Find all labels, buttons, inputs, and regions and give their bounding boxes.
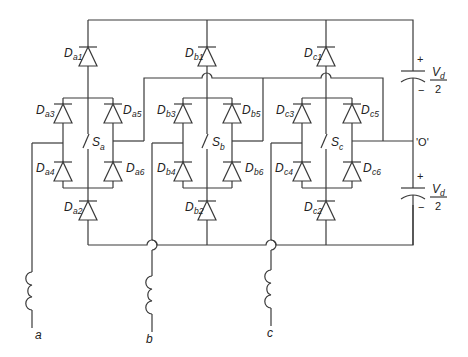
svg-text:D: D: [36, 161, 45, 175]
diode-c5-icon: [343, 104, 361, 123]
diode-a6-icon: [104, 162, 122, 181]
capacitor-upper: + − V d 2: [401, 53, 447, 141]
svg-text:b5: b5: [251, 109, 261, 119]
svg-text:a3: a3: [45, 109, 55, 119]
svg-text:D: D: [276, 103, 285, 117]
terminal-a-label: a: [35, 328, 42, 342]
diode-b6-icon: [223, 162, 241, 181]
svg-text:c: c: [339, 142, 344, 152]
diode-b4-icon: [174, 162, 192, 181]
svg-text:a2: a2: [73, 206, 83, 216]
diode-a4-icon: [54, 162, 72, 181]
svg-text:D: D: [361, 103, 370, 117]
cap-upper-den: 2: [435, 83, 441, 95]
phase-c-bridge: D c1 D c3 D c5 S c D c4: [271, 20, 381, 245]
svg-text:c4: c4: [284, 167, 293, 177]
svg-text:S: S: [331, 135, 339, 149]
svg-text:b2: b2: [194, 206, 204, 216]
diode-b5-icon: [223, 104, 241, 123]
diode-b3-icon: [174, 104, 192, 123]
schematic: + − V d 2 + − V d 2 'O' D a1: [0, 0, 468, 357]
svg-text:c2: c2: [313, 206, 322, 216]
diode-c6-icon: [343, 162, 361, 181]
svg-text:D: D: [245, 161, 254, 175]
svg-text:D: D: [157, 161, 166, 175]
phase-a-bridge: D a1 D a3 D a5 S a: [32, 20, 145, 245]
svg-text:b3: b3: [166, 109, 176, 119]
svg-text:D: D: [64, 46, 73, 60]
diode-c4-icon: [293, 162, 311, 181]
switch-sb: [202, 134, 208, 148]
svg-text:c1: c1: [313, 52, 322, 62]
svg-text:a4: a4: [45, 167, 55, 177]
svg-text:D: D: [242, 103, 251, 117]
cap-lower-minus: −: [418, 201, 424, 213]
svg-text:a1: a1: [73, 52, 83, 62]
phase-b-bridge: D b1 D b3 D b5 S b D b4: [152, 20, 264, 245]
svg-text:b: b: [220, 142, 225, 152]
svg-text:a6: a6: [135, 167, 145, 177]
svg-text:D: D: [157, 103, 166, 117]
cap-lower-plus: +: [417, 170, 423, 182]
switch-sa: [83, 134, 89, 148]
switch-sc: [321, 134, 327, 148]
svg-text:S: S: [212, 135, 220, 149]
svg-text:D: D: [185, 46, 194, 60]
svg-text:c5: c5: [370, 109, 379, 119]
terminal-b-label: b: [146, 332, 153, 346]
diode-a3-icon: [54, 104, 72, 123]
svg-text:c6: c6: [372, 167, 381, 177]
svg-text:b6: b6: [254, 167, 264, 177]
svg-text:D: D: [126, 161, 135, 175]
positive-dc-rail: [88, 20, 413, 64]
neutral-label: 'O': [416, 136, 429, 148]
diode-c3-icon: [293, 104, 311, 123]
svg-text:b1: b1: [194, 52, 204, 62]
negative-dc-rail: [88, 205, 413, 245]
diode-a5-icon: [104, 104, 122, 123]
capacitor-lower: + − V d 2: [401, 141, 447, 245]
svg-text:D: D: [304, 200, 313, 214]
svg-text:a: a: [100, 142, 105, 152]
svg-text:b4: b4: [166, 167, 176, 177]
svg-text:D: D: [304, 46, 313, 60]
svg-text:D: D: [36, 103, 45, 117]
svg-text:a5: a5: [132, 109, 142, 119]
cap-lower-den: 2: [435, 200, 441, 212]
terminal-c-label: c: [267, 326, 273, 340]
cap-upper-minus: −: [418, 84, 424, 96]
svg-text:S: S: [92, 135, 100, 149]
svg-text:c3: c3: [285, 109, 294, 119]
cap-upper-plus: +: [417, 53, 423, 65]
svg-text:D: D: [123, 103, 132, 117]
svg-text:D: D: [64, 200, 73, 214]
svg-text:D: D: [185, 200, 194, 214]
circuit-diagram: + − V d 2 + − V d 2 'O' D a1: [0, 0, 468, 357]
svg-text:D: D: [363, 161, 372, 175]
svg-text:D: D: [275, 161, 284, 175]
